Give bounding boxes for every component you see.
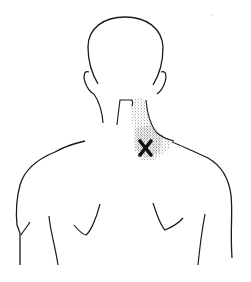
body-outline-diagram bbox=[0, 0, 251, 282]
left-ear-outline bbox=[84, 72, 94, 94]
head-outline bbox=[88, 17, 163, 85]
right-torso-line bbox=[198, 214, 205, 265]
speck bbox=[212, 15, 213, 16]
left-armpit-line bbox=[21, 222, 30, 235]
left-torso-line bbox=[49, 216, 58, 265]
left-scapula-line bbox=[74, 204, 100, 235]
left-shoulder-outline bbox=[16, 141, 85, 265]
neck-left-line bbox=[94, 94, 103, 123]
referred-pain-area bbox=[131, 97, 172, 160]
right-scapula-line bbox=[153, 203, 183, 230]
right-shoulder-outline bbox=[172, 142, 232, 258]
neck-inner-line bbox=[117, 100, 133, 125]
